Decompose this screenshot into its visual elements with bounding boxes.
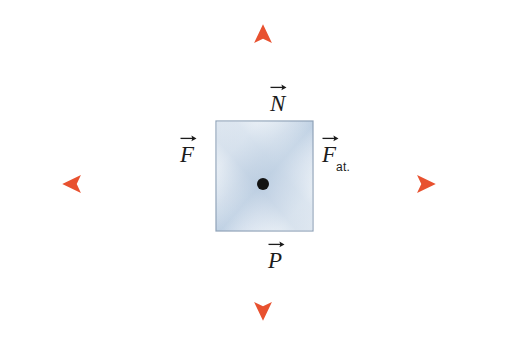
friction-force-label: F at. [322,143,350,168]
friction-force-subscript: at. [336,160,350,174]
normal-force-symbol: N [270,92,285,115]
block [216,121,313,231]
applied-force-letter: F [180,142,194,167]
center-point [257,178,269,190]
friction-force-symbol: F [322,143,336,166]
block-shading [217,122,313,231]
weight-force-label: P [268,249,282,272]
applied-force-label: F [180,143,194,166]
force-diagram-canvas [0,0,525,345]
normal-force-label: N [270,92,285,115]
weight-force-symbol: P [268,249,282,272]
normal-force-letter: N [270,91,285,116]
weight-force-letter: P [268,248,282,273]
applied-force-symbol: F [180,143,194,166]
friction-force-letter: F [322,142,336,167]
force-diagram: N P F F at. [0,0,525,345]
